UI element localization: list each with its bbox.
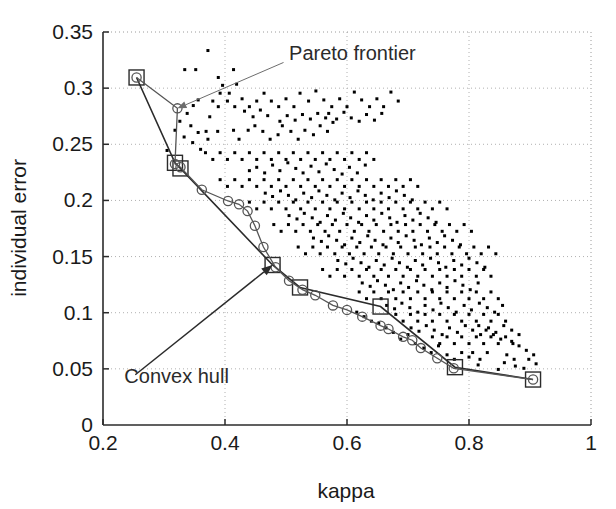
y-tick-label: 0.25 (52, 132, 93, 155)
y-tick-label: 0.2 (64, 188, 93, 211)
chart-canvas: 0.20.40.60.8100.050.10.150.20.250.30.35 … (0, 0, 616, 509)
y-axis-title: individual error (7, 159, 30, 297)
x-tick-label: 0.4 (210, 431, 240, 454)
x-tick-label: 1 (585, 431, 597, 454)
y-tick-label: 0.35 (52, 20, 93, 43)
y-tick-label: 0.05 (52, 357, 93, 380)
y-tick-label: 0.3 (64, 76, 93, 99)
y-tick-label: 0 (81, 413, 93, 436)
pareto-frontier-label: Pareto frontier (289, 42, 416, 64)
y-tick-label: 0.15 (52, 245, 93, 268)
x-axis-title: kappa (317, 479, 375, 502)
pareto-frontier-chart: 0.20.40.60.8100.050.10.150.20.250.30.35 … (0, 0, 616, 509)
x-tick-label: 0.6 (332, 431, 361, 454)
x-tick-label: 0.8 (454, 431, 483, 454)
convex-hull-label: Convex hull (124, 365, 229, 387)
y-tick-label: 0.1 (64, 301, 93, 324)
